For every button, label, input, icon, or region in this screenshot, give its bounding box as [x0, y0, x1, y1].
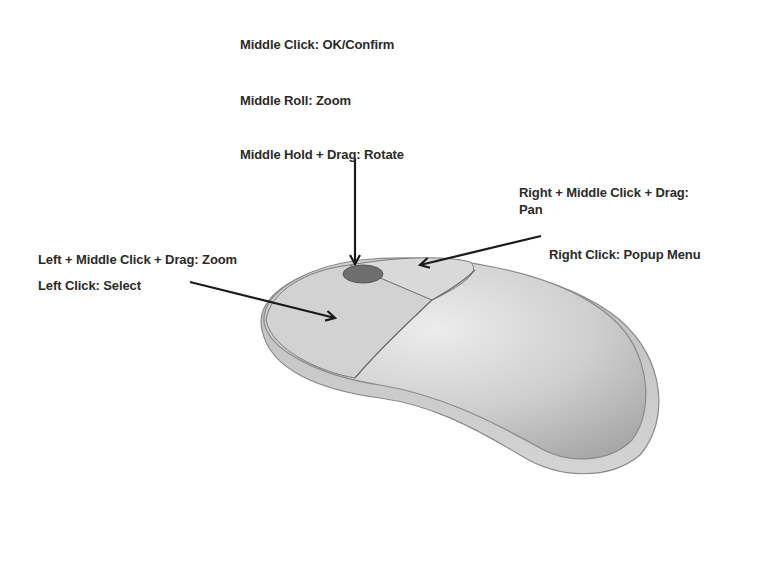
label-middle-hold-drag: Middle Hold + Drag: Rotate: [240, 146, 404, 163]
label-right-middle-drag-line1: Right + Middle Click + Drag:: [519, 184, 689, 201]
label-middle-click: Middle Click: OK/Confirm: [240, 36, 394, 53]
label-left-middle-drag: Left + Middle Click + Drag: Zoom: [38, 251, 237, 268]
scroll-wheel: [343, 265, 383, 283]
label-right-middle-drag-line2: Pan: [519, 201, 543, 218]
label-right-click: Right Click: Popup Menu: [549, 246, 701, 263]
label-left-click: Left Click: Select: [38, 277, 141, 294]
arrow-right-click: [420, 236, 541, 265]
label-middle-roll: Middle Roll: Zoom: [240, 92, 351, 109]
